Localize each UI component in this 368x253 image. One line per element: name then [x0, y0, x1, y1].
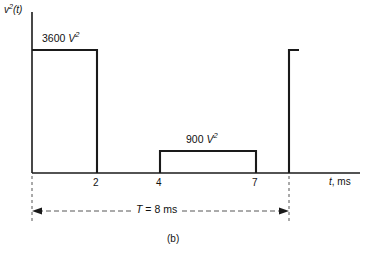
x-axis-label: t, ms — [329, 176, 351, 187]
period-arrow-left — [32, 208, 42, 215]
amplitude-1-value: 3600 — [42, 32, 65, 44]
y-axis-label-argument: (t) — [13, 4, 22, 15]
pulse-3-trace — [289, 50, 299, 173]
waveform-figure: v2(t) t, ms 3600 V2 900 V2 2 4 7 T = 8 m… — [0, 0, 368, 253]
x-tick-label-2: 2 — [93, 177, 99, 188]
period-label-value: = 8 ms — [145, 203, 177, 215]
amplitude-2-exponent: 2 — [213, 131, 217, 140]
period-label: T = 8 ms — [133, 203, 180, 215]
period-arrow-right — [279, 208, 289, 215]
y-axis-label: v2(t) — [4, 2, 22, 15]
x-tick-label-4: 4 — [156, 177, 162, 188]
amplitude-label-2: 900 V2 — [186, 131, 218, 145]
pulse-1-trace — [32, 50, 97, 173]
x-axis-label-unit: , ms — [332, 176, 351, 187]
amplitude-1-exponent: 2 — [75, 30, 79, 39]
amplitude-2-value: 900 — [186, 133, 204, 145]
figure-caption: (b) — [167, 233, 179, 244]
pulse-2-trace — [160, 151, 256, 173]
period-label-variable: T — [136, 203, 142, 215]
x-tick-label-7: 7 — [252, 177, 258, 188]
amplitude-label-1: 3600 V2 — [42, 30, 80, 44]
